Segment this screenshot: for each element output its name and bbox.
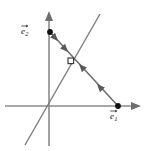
label-e1: e1 <box>110 110 118 123</box>
vector-diagram-figure: e2 e1 <box>0 0 147 151</box>
label-e1-vector: e1 <box>110 110 118 123</box>
diagram-canvas <box>0 0 147 151</box>
basis-point-e2 <box>47 29 53 35</box>
open-point-marker <box>68 58 74 64</box>
vertical-axis-arrowhead <box>45 11 53 21</box>
vector-arrow-icon <box>21 24 29 28</box>
label-e2-vector: e2 <box>21 25 29 38</box>
diagonal-span-line <box>25 14 100 145</box>
label-e2-subscript: 2 <box>25 30 28 37</box>
label-e1-subscript: 1 <box>114 115 117 122</box>
label-e2: e2 <box>21 25 29 38</box>
vector-arrow-icon <box>110 109 118 113</box>
horizontal-axis-arrowhead <box>131 102 141 110</box>
